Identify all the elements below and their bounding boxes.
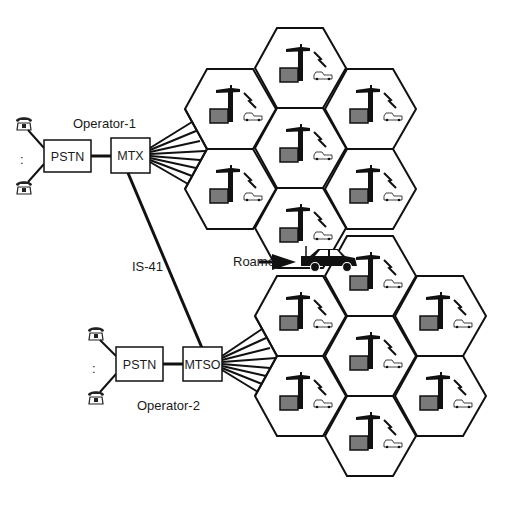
operator-1-cell-sites: [210, 44, 402, 242]
base-station-tower-icon: [280, 292, 332, 330]
base-station-tower-icon: [210, 165, 262, 203]
mtx-label: MTX: [117, 149, 144, 163]
operator-2-network: : PSTN MTSO Operator-2: [88, 316, 277, 413]
base-station-tower-icon: [280, 124, 332, 162]
is41-label: IS-41: [132, 259, 163, 274]
base-station-tower-icon: [280, 204, 332, 242]
base-station-tower-icon: [350, 332, 402, 370]
base-station-tower-icon: [350, 252, 402, 290]
pstn-label: PSTN: [123, 358, 156, 372]
base-station-tower-icon: [280, 372, 332, 410]
pstn-label: PSTN: [51, 150, 84, 164]
trunk-lines: [150, 109, 207, 189]
base-station-tower-icon: [420, 372, 472, 410]
trunk-lines: [222, 316, 277, 396]
telephone-icon: [16, 181, 32, 194]
telephone-icon: [88, 327, 104, 340]
base-station-tower-icon: [350, 412, 402, 450]
base-station-tower-icon: [350, 165, 402, 203]
ellipsis: :: [20, 152, 24, 167]
base-station-tower-icon: [280, 44, 332, 82]
telephone-icon: [88, 391, 104, 404]
operator-2-cell-sites: [280, 252, 472, 450]
base-station-tower-icon: [210, 85, 262, 123]
operator-1-label: Operator-1: [73, 116, 136, 131]
telephone-icon: [16, 117, 32, 130]
ellipsis: :: [92, 361, 96, 376]
base-station-tower-icon: [420, 292, 472, 330]
cellular-roaming-diagram: : PSTN MTX Operator-1 IS-41 : PSTN: [0, 0, 510, 506]
operator-2-label: Operator-2: [137, 398, 200, 413]
operator-1-network: : PSTN MTX Operator-1: [16, 109, 207, 194]
base-station-tower-icon: [350, 85, 402, 123]
mtso-label: MTSO: [184, 358, 220, 372]
